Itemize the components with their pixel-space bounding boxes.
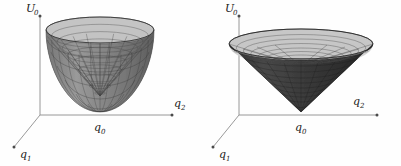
- q1-axis-label: q: [20, 148, 27, 161]
- cone-panel: U 0 q 2 q 1 q 0: [201, 0, 401, 166]
- q1-axis-tip: [212, 146, 215, 149]
- q1-axis-tip: [13, 146, 16, 149]
- q1-axis-line: [213, 115, 239, 147]
- u0-axis-sublabel: 0: [34, 9, 39, 17]
- q2-axis-tip: [171, 114, 174, 117]
- q0-origin-sublabel: 0: [302, 128, 307, 136]
- q2-axis-label: q: [353, 95, 360, 108]
- q2-axis-sublabel: 2: [359, 102, 365, 110]
- q2-axis-sublabel: 2: [180, 104, 186, 112]
- q1-axis-sublabel: 1: [27, 155, 31, 163]
- q1-axis-sublabel: 1: [226, 155, 230, 163]
- figure-container: U 0 q 2 q 1 q 0: [0, 0, 401, 166]
- cone-plot: U 0 q 2 q 1 q 0: [201, 0, 401, 166]
- u0-axis-tip: [238, 15, 241, 18]
- paraboloid-surface: [40, 17, 162, 120]
- paraboloid-panel: U 0 q 2 q 1 q 0: [0, 0, 200, 166]
- q0-origin-label: q: [295, 121, 302, 134]
- u0-axis-tip: [39, 15, 42, 18]
- q0-origin-label: q: [94, 121, 101, 134]
- q0-origin-sublabel: 0: [101, 128, 106, 136]
- q1-axis-line: [14, 115, 40, 147]
- q2-axis-label: q: [174, 97, 181, 110]
- q2-axis-tip: [376, 114, 379, 117]
- q1-axis-label: q: [219, 148, 226, 161]
- paraboloid-plot: U 0 q 2 q 1 q 0: [0, 0, 200, 166]
- u0-axis-sublabel: 0: [233, 9, 238, 17]
